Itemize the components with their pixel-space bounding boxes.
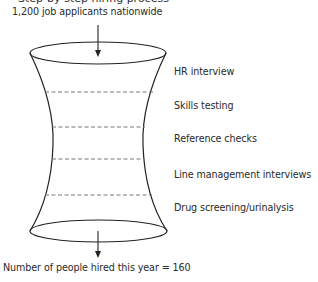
stage-dividers xyxy=(45,92,153,195)
output-arrow-icon xyxy=(95,231,101,258)
stage-label-skills-testing: Skills testing xyxy=(174,100,234,111)
funnel-left-side xyxy=(30,53,53,231)
stage-label-reference-checks: Reference checks xyxy=(174,133,257,144)
input-arrow-icon xyxy=(95,25,101,57)
funnel-right-side xyxy=(143,53,167,231)
stage-label-drug-screening: Drug screening/urinalysis xyxy=(174,202,294,213)
stage-label-line-management: Line management interviews xyxy=(174,169,311,180)
output-label: Number of people hired this year = 160 xyxy=(3,262,191,273)
stage-label-hr-interview: HR interview xyxy=(174,66,234,77)
funnel-diagram xyxy=(0,0,318,282)
